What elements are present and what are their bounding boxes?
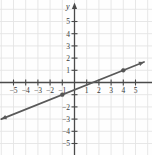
coordinate-plane-chart: −5−4−3−2−112345−5−4−3−212345 y (0, 0, 152, 155)
y-tick-label: −5 (62, 139, 70, 148)
y-tick-label: 3 (66, 42, 70, 51)
x-tick-label: −3 (34, 86, 42, 95)
y-axis-label: y (65, 2, 70, 11)
y-tick-label: 2 (66, 54, 70, 63)
x-tick-label: 3 (109, 86, 113, 95)
data-point (121, 68, 125, 72)
x-tick-label: −4 (22, 86, 30, 95)
x-tick-label: −5 (10, 86, 18, 95)
y-tick-label: −4 (62, 127, 70, 136)
x-tick-label: −2 (46, 86, 54, 95)
data-point (60, 93, 64, 97)
x-tick-label: 5 (134, 86, 138, 95)
x-tick-label: 2 (97, 86, 101, 95)
graph-container: −5−4−3−2−112345−5−4−3−212345 y (0, 0, 152, 155)
x-tick-label: 4 (121, 86, 125, 95)
y-tick-label: −2 (62, 103, 70, 112)
x-tick-label: 1 (85, 86, 89, 95)
y-tick-label: 5 (66, 17, 70, 26)
y-tick-label: 1 (66, 66, 70, 75)
y-tick-label: 4 (66, 30, 70, 39)
y-tick-label: −3 (62, 115, 70, 124)
